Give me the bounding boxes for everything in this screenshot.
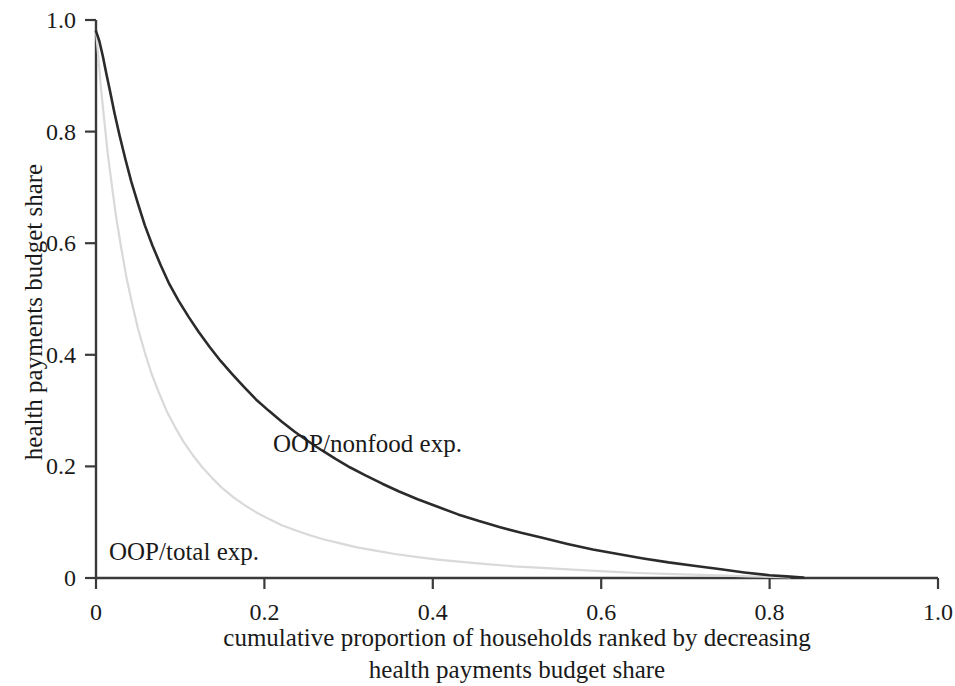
x-axis-tick-label: 0 (90, 600, 102, 624)
series-label-oop-total: OOP/total exp. (109, 538, 259, 566)
y-axis-tick-label: 1.0 (0, 8, 76, 32)
y-axis-title: health payments budget share (20, 82, 48, 542)
series-line-oop-nonfood-exp (96, 31, 803, 577)
axis-group (85, 20, 938, 589)
x-axis-title-line-1: cumulative proportion of households rank… (96, 622, 938, 654)
series-line-oop-total-exp (96, 31, 790, 577)
x-axis-title: cumulative proportion of households rank… (96, 622, 938, 686)
x-axis-tick-label: 0.8 (755, 600, 785, 624)
x-axis-tick-label: 0.6 (586, 600, 616, 624)
x-axis-tick-label: 0.4 (418, 600, 448, 624)
x-axis-title-line-2: health payments budget share (96, 654, 938, 686)
series-label-oop-nonfood: OOP/nonfood exp. (273, 430, 462, 458)
x-axis-tick-label: 0.2 (249, 600, 279, 624)
x-axis-tick-label: 1.0 (923, 600, 953, 624)
y-axis-tick-label: 0 (0, 566, 76, 590)
series-group (96, 31, 803, 577)
